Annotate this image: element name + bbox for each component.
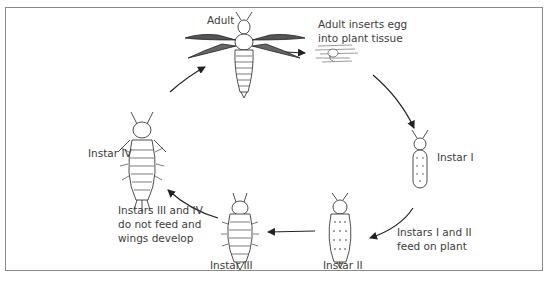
arrow-instar4-to-adult — [170, 67, 205, 92]
egg-in-plant-tissue-icon — [315, 45, 358, 62]
stage-label-instar-1: Instar I — [437, 150, 474, 164]
stage-label-instar-2: Instar II — [323, 258, 363, 272]
stage-label-egg: Adult inserts egg into plant tissue — [318, 17, 407, 45]
stage-label-adult: Adult — [207, 13, 234, 27]
note-nonfeeding: Instars III and IV do not feed and wings… — [118, 203, 203, 245]
adult-thrips-icon — [185, 12, 305, 98]
stage-label-instar-3: Instar III — [210, 258, 253, 272]
instar-1-icon — [412, 130, 428, 188]
arrow-instar2-to-instar3 — [268, 231, 315, 232]
arrow-egg-to-instar1 — [373, 75, 414, 128]
cycle-arrows — [168, 52, 414, 238]
instar-2-icon — [329, 193, 351, 268]
stage-label-instar-4: Instar IV — [88, 146, 132, 160]
instar-4-icon — [118, 112, 166, 212]
note-feeding: Instars I and II feed on plant — [397, 225, 472, 253]
